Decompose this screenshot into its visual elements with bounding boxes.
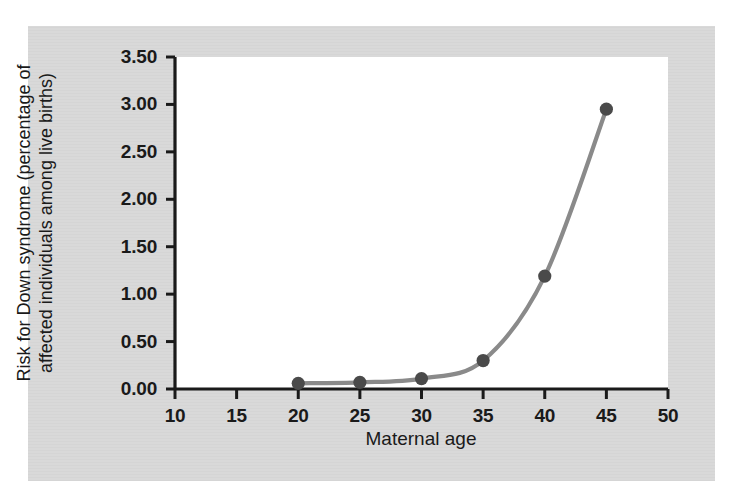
x-axis-tick-label: 40 <box>534 405 555 427</box>
data-point-marker <box>600 103 613 116</box>
y-axis-tick-label: 3.00 <box>65 93 157 115</box>
y-axis-tick-label: 2.00 <box>65 188 157 210</box>
x-axis-tick-label: 30 <box>411 405 432 427</box>
data-point-markers <box>292 103 613 390</box>
data-point-marker <box>292 377 305 390</box>
data-point-marker <box>538 270 551 283</box>
y-axis-tick-label: 0.50 <box>65 331 157 353</box>
x-axis-tick-label: 15 <box>226 405 247 427</box>
y-axis-title: Risk for Down syndrome (percentage of af… <box>14 23 58 423</box>
x-axis-tick-label: 10 <box>165 405 186 427</box>
x-axis-tick-label: 35 <box>473 405 494 427</box>
x-axis-title: Maternal age <box>366 428 477 450</box>
x-axis-tick-label: 45 <box>596 405 617 427</box>
y-axis-tick-label: 3.50 <box>65 46 157 68</box>
y-axis-tick-label: 1.00 <box>65 283 157 305</box>
y-axis-title-line-2: affected individuals among live births) <box>36 23 58 423</box>
y-axis-tick-label: 1.50 <box>65 236 157 258</box>
axes-group <box>175 57 668 389</box>
figure-root: 0.000.501.001.502.002.503.003.50 1015202… <box>0 0 750 503</box>
y-axis-tick-label: 0.00 <box>65 378 157 400</box>
axis-ticks-group <box>166 57 668 399</box>
y-axis-title-line-1: Risk for Down syndrome (percentage of <box>14 23 36 423</box>
x-axis-tick-label: 50 <box>658 405 679 427</box>
x-axis-tick-label: 25 <box>350 405 371 427</box>
y-axis-tick-label: 2.50 <box>65 141 157 163</box>
data-point-marker <box>415 372 428 385</box>
data-point-marker <box>477 354 490 367</box>
data-line-series <box>298 109 606 383</box>
data-point-marker <box>353 376 366 389</box>
x-axis-tick-label: 20 <box>288 405 309 427</box>
